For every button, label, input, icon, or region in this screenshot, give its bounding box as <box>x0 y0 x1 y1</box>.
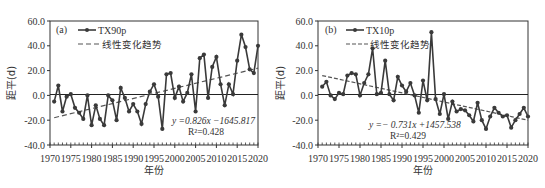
y-axis-title: 距平(d) <box>6 66 17 100</box>
data-point <box>210 65 214 69</box>
y-tick-label: -40.0 <box>24 140 45 151</box>
x-tick-label: 1995 <box>144 153 164 164</box>
data-point <box>223 103 227 107</box>
data-point <box>429 30 433 34</box>
data-point <box>185 91 189 95</box>
data-point <box>324 80 328 84</box>
data-point <box>408 81 412 85</box>
data-point <box>518 112 522 116</box>
data-point <box>463 108 467 112</box>
data-point <box>387 92 391 96</box>
y-tick-label: 20.0 <box>28 65 46 76</box>
data-point <box>119 86 123 90</box>
x-tick-label: 1990 <box>392 153 412 164</box>
data-point <box>476 101 480 105</box>
x-tick-label: 2010 <box>206 153 226 164</box>
y-tick-label: 60.0 <box>28 16 46 27</box>
legend: TX90p 线性变化趋势 <box>78 25 162 50</box>
x-tick-label: 2000 <box>165 153 185 164</box>
data-point <box>69 92 73 96</box>
data-point <box>169 71 173 75</box>
data-point <box>345 73 349 77</box>
x-axis-title: 年份 <box>144 164 164 176</box>
chart-a-svg: 60.040.020.00.0-20.0-40.0 19701975198019… <box>0 0 272 188</box>
data-point <box>438 112 442 116</box>
data-point <box>509 126 513 130</box>
x-axis-ticks: 1970197519801985199019952000200520102015… <box>40 145 268 164</box>
data-point <box>450 100 454 104</box>
panel-label: (a) <box>56 24 67 36</box>
y-tick-label: -20.0 <box>292 115 313 126</box>
data-point <box>471 119 475 123</box>
data-point <box>160 127 164 131</box>
x-tick-label: 2005 <box>186 153 206 164</box>
data-point <box>94 103 98 107</box>
y-axis-ticks: 60.040.020.00.0-20.0-40.0 <box>292 16 318 151</box>
y-tick-label: 20.0 <box>296 65 314 76</box>
data-point <box>164 72 168 76</box>
data-point <box>425 98 429 102</box>
x-tick-label: 2020 <box>248 153 268 164</box>
data-point <box>243 45 247 49</box>
data-point <box>85 93 89 97</box>
legend: TX10p 线性变化趋势 <box>346 25 430 50</box>
data-point <box>102 123 106 127</box>
data-point <box>513 118 517 122</box>
data-point <box>350 71 354 75</box>
data-point <box>231 92 235 96</box>
x-tick-label: 2000 <box>434 153 454 164</box>
y-tick-label: 0.0 <box>33 90 46 101</box>
x-tick-label: 1980 <box>350 153 370 164</box>
data-point <box>248 67 252 71</box>
data-point <box>114 118 118 122</box>
legend-trend-label: 线性变化趋势 <box>102 39 162 50</box>
data-point <box>522 106 526 110</box>
data-point <box>181 100 185 104</box>
data-point <box>396 75 400 79</box>
data-point <box>90 123 94 127</box>
legend-trend-label: 线性变化趋势 <box>370 39 430 50</box>
data-point <box>320 85 324 89</box>
data-point <box>156 95 160 99</box>
data-point <box>252 71 256 75</box>
data-point <box>127 109 131 113</box>
x-tick-label: 1980 <box>82 153 102 164</box>
data-point <box>98 117 102 121</box>
data-point <box>135 109 139 113</box>
panel-label: (b) <box>325 24 337 36</box>
y-tick-label: 40.0 <box>296 40 314 51</box>
data-point <box>218 82 222 86</box>
legend-series-label: TX10p <box>366 25 394 36</box>
x-tick-label: 2020 <box>518 153 538 164</box>
data-point <box>413 93 417 97</box>
data-point <box>417 111 421 115</box>
data-point <box>106 93 110 97</box>
y-tick-label: 40.0 <box>28 40 46 51</box>
data-point <box>256 44 260 48</box>
data-point <box>65 95 69 99</box>
data-point <box>354 72 358 76</box>
data-point <box>434 97 438 101</box>
x-tick-label: 1985 <box>102 153 122 164</box>
data-point <box>341 92 345 96</box>
y-tick-label: 0.0 <box>301 90 314 101</box>
x-tick-label: 2015 <box>227 153 247 164</box>
r-squared: R²=0.428 <box>188 127 224 137</box>
y-axis-ticks: 60.040.020.00.0-20.0-40.0 <box>24 16 50 151</box>
data-point <box>442 92 446 96</box>
data-point <box>362 81 366 85</box>
x-tick-label: 1975 <box>329 153 349 164</box>
x-tick-label: 1990 <box>123 153 143 164</box>
data-point <box>206 96 210 100</box>
data-point <box>480 118 484 122</box>
data-point <box>333 97 337 101</box>
data-point <box>501 114 505 118</box>
data-point <box>497 111 501 115</box>
data-point <box>375 92 379 96</box>
data-point <box>131 102 135 106</box>
regression-equation: y =0.826x −1645.817 <box>171 116 256 126</box>
data-point <box>421 78 425 82</box>
data-point <box>81 117 85 121</box>
data-point <box>148 90 152 94</box>
data-point <box>455 109 459 113</box>
